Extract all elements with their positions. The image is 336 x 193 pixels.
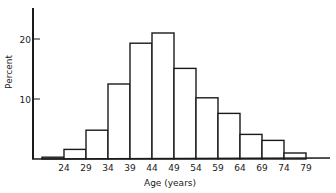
histogram-bar-69-74 (262, 140, 284, 159)
histogram-bar-29-34 (86, 130, 108, 159)
histogram-bar-49-54 (174, 68, 196, 159)
x-axis-label: Age (years) (144, 178, 196, 188)
x-tick-label: 54 (190, 163, 202, 173)
x-tick-label: 49 (168, 163, 180, 173)
x-tick-label: 64 (234, 163, 246, 173)
histogram-bar-44-49 (152, 33, 174, 159)
histogram-bar-39-44 (130, 43, 152, 159)
x-tick-label: 34 (102, 163, 114, 173)
y-axis-label: Percent (4, 55, 14, 89)
x-tick-label: 69 (256, 163, 268, 173)
histogram-bar-24-29 (64, 149, 86, 159)
histogram-chart: 1020 242934394449545964697479 Percent Ag… (0, 0, 336, 193)
x-tick-label: 29 (80, 163, 92, 173)
y-tick-label: 10 (20, 95, 32, 105)
histogram-bar-64-69 (240, 134, 262, 159)
histogram-bar-59-64 (218, 113, 240, 159)
x-tick-label: 39 (124, 163, 136, 173)
x-tick-label: 44 (146, 163, 158, 173)
chart-canvas: 1020 242934394449545964697479 Percent Ag… (0, 0, 336, 193)
y-axis-ticks: 1020 (20, 35, 40, 105)
bars (42, 33, 306, 159)
x-axis-ticks: 242934394449545964697479 (58, 163, 312, 173)
y-tick-label: 20 (20, 35, 32, 45)
x-tick-label: 74 (278, 163, 290, 173)
x-axis-line (32, 158, 330, 159)
x-tick-label: 24 (58, 163, 70, 173)
x-tick-label: 59 (212, 163, 224, 173)
x-tick-label: 79 (300, 163, 312, 173)
histogram-bar-54-59 (196, 98, 218, 159)
histogram-bar-34-39 (108, 84, 130, 159)
